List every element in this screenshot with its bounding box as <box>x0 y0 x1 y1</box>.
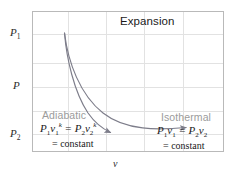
isothermal-equation: P1v1 = P2v2 <box>157 124 211 140</box>
isothermal-eq-v1-sub: 1 <box>172 131 176 139</box>
adiabatic-eq-equals: = <box>64 122 71 134</box>
y-tick-label-p: P <box>13 80 20 91</box>
isothermal-eq-v2-sub: 2 <box>204 131 208 139</box>
gridline-horizontal <box>33 87 223 88</box>
isothermal-eq-equals: = <box>178 124 185 136</box>
y-tick-p1-sub: 1 <box>17 32 21 41</box>
chart-title: Expansion <box>120 15 175 27</box>
gridline-horizontal <box>33 34 223 35</box>
y-tick-p2-base: P <box>10 127 17 139</box>
pv-diagram-figure: P1 P P2 v Expansion Adiabatic <box>0 0 238 180</box>
isothermal-eq-p1: P <box>157 124 164 136</box>
isothermal-label: Isothermal <box>157 112 211 124</box>
y-tick-p2-sub: 2 <box>17 133 21 142</box>
isothermal-constant: = constant <box>157 140 211 151</box>
y-tick-label-p1: P1 <box>10 27 20 41</box>
adiabatic-equation: P1v1k = P2v2k <box>40 122 96 138</box>
adiabatic-annotation: Adiabatic P1v1k = P2v2k = constant <box>40 110 96 149</box>
adiabatic-eq-v1-sub: 1 <box>55 129 59 137</box>
adiabatic-eq-p1: P <box>40 122 47 134</box>
y-tick-p1-base: P <box>10 26 17 38</box>
adiabatic-eq-k1: k <box>59 121 62 129</box>
adiabatic-label: Adiabatic <box>40 110 96 122</box>
gridline-horizontal <box>33 63 223 64</box>
gridline-vertical <box>144 12 145 151</box>
adiabatic-eq-k2: k <box>93 121 96 129</box>
y-tick-label-p2: P2 <box>10 128 20 142</box>
gridline-vertical <box>106 12 107 151</box>
x-axis-label: v <box>113 159 117 169</box>
isothermal-annotation: Isothermal P1v1 = P2v2 = constant <box>157 112 211 151</box>
adiabatic-constant: = constant <box>40 138 96 149</box>
adiabatic-eq-v2-sub: 2 <box>90 129 94 137</box>
y-tick-p-base: P <box>13 79 20 91</box>
